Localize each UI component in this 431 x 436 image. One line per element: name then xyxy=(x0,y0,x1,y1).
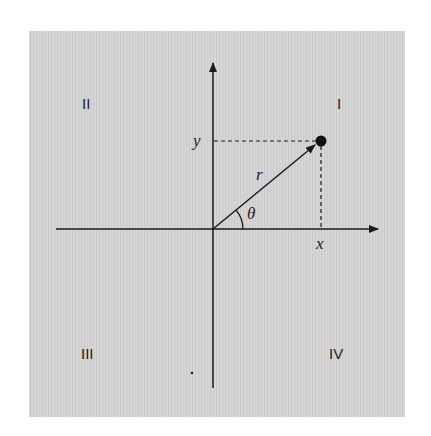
quadrant-label-iv: IV xyxy=(329,345,343,362)
polar-coordinate-diagram: II I III IV y x r θ xyxy=(0,0,431,436)
point-marker xyxy=(316,136,327,147)
quadrant-label-ii: II xyxy=(82,95,90,112)
theta-angle-arc xyxy=(236,210,243,229)
x-label: x xyxy=(315,234,324,253)
theta-label: θ xyxy=(247,204,255,223)
quadrant-label-i: I xyxy=(337,95,341,112)
speck-dot xyxy=(191,372,194,375)
r-label: r xyxy=(256,165,263,184)
y-label: y xyxy=(191,131,201,150)
quadrant-label-iii: III xyxy=(81,345,94,362)
radius-vector-arrow xyxy=(213,145,315,229)
